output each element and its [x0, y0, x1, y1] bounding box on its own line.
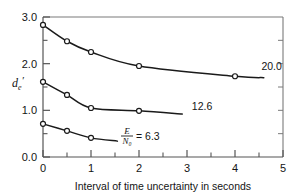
- series-curve-20.0: [43, 25, 264, 78]
- x-tick-label: 2: [136, 162, 142, 174]
- x-axis-title: Interval of time uncertainty in seconds: [75, 180, 251, 192]
- data-point: [65, 92, 70, 97]
- x-tick-label: 0: [40, 162, 46, 174]
- series-curve-6.3: [43, 124, 117, 141]
- annotation-denominator: N₀: [121, 136, 131, 146]
- y-tick-label: 3.0: [22, 11, 37, 23]
- plot-area: 0.01.02.03.001234520.012.6Interval of ti…: [0, 0, 303, 193]
- data-point: [65, 128, 70, 133]
- annotation-value: = 6.3: [136, 130, 160, 142]
- data-point: [89, 50, 94, 55]
- x-tick-label: 4: [232, 162, 238, 174]
- series-curve-12.6: [43, 82, 182, 114]
- x-tick-label: 5: [280, 162, 286, 174]
- x-tick-label: 1: [88, 162, 94, 174]
- y-tick-label: 2.0: [22, 58, 37, 70]
- annotation-snr: EN₀= 6.3: [121, 126, 160, 147]
- data-point: [41, 22, 46, 27]
- data-point: [41, 79, 46, 84]
- y-axis-title: de′: [12, 74, 25, 92]
- chart-figure: 0.01.02.03.001234520.012.6Interval of ti…: [0, 0, 303, 193]
- data-point: [89, 106, 94, 111]
- curve-label-20.0: 20.0: [261, 60, 282, 72]
- data-point: [89, 135, 94, 140]
- data-point: [41, 121, 46, 126]
- data-point: [233, 74, 238, 79]
- data-point: [137, 64, 142, 69]
- y-tick-label: 1.0: [22, 104, 37, 116]
- curve-label-12.6: 12.6: [192, 100, 213, 112]
- x-tick-label: 3: [184, 162, 190, 174]
- annotation-numerator: E: [123, 126, 130, 136]
- data-point: [137, 108, 142, 113]
- y-tick-label: 0.0: [22, 151, 37, 163]
- data-point: [65, 39, 70, 44]
